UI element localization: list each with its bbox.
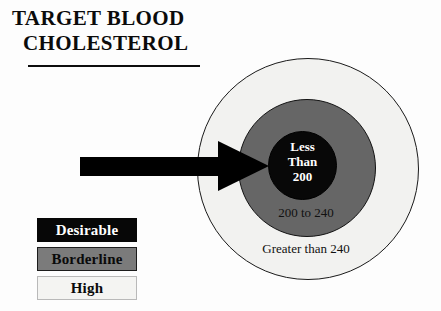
right-arrow-icon-shaft (80, 157, 220, 176)
ring-inner-label-line-1: Less (268, 139, 337, 154)
ring-middle-label: 200 to 240 (236, 205, 376, 221)
page-title-line-2: CHOLESTEROL (23, 31, 222, 56)
ring-outer-label: Greater than 240 (220, 241, 392, 257)
ring-inner-label-line-3: 200 (268, 169, 337, 184)
ring-inner-label: Less Than 200 (268, 139, 337, 184)
page-title-line-1: TARGET BLOOD (12, 6, 222, 31)
legend-item-high: High (37, 276, 137, 300)
legend-item-borderline: Borderline (37, 247, 137, 271)
legend-item-desirable-label: Desirable (56, 222, 119, 239)
ring-inner-label-line-2: Than (268, 154, 337, 169)
cholesterol-target-figure: TARGET BLOOD CHOLESTEROL Greater than 24… (0, 0, 441, 311)
title-underline-divider (28, 65, 200, 67)
legend-item-high-label: High (71, 280, 103, 297)
page-title: TARGET BLOOD CHOLESTEROL (12, 6, 222, 56)
legend: Desirable Borderline High (37, 218, 137, 305)
legend-item-borderline-label: Borderline (51, 251, 122, 268)
legend-item-desirable: Desirable (37, 218, 137, 242)
right-arrow-icon-head (218, 141, 269, 191)
